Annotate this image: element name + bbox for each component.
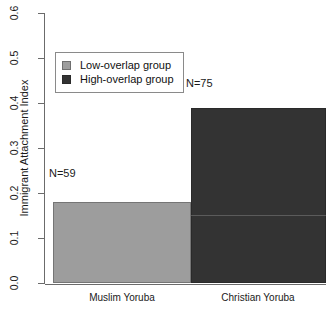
legend-label-low-overlap: Low-overlap group — [80, 59, 171, 71]
y-tick-mark-0.6 — [38, 13, 44, 14]
y-tick-mark-0.1 — [38, 238, 44, 239]
y-tick-mark-0.0 — [38, 283, 44, 284]
y-tick-mark-0.4 — [38, 103, 44, 104]
y-tick-label-0.2: 0.2 — [8, 173, 20, 213]
scan-artifact-line — [191, 215, 326, 216]
bar-high-overlap-group — [191, 108, 326, 284]
legend: Low-overlap group High-overlap group — [55, 52, 184, 93]
y-tick-mark-0.2 — [38, 193, 44, 194]
plot-area — [45, 0, 326, 284]
n-label-christian-yoruba: N=75 — [186, 77, 213, 89]
y-tick-label-0.4: 0.4 — [8, 83, 20, 123]
x-axis-line — [45, 284, 326, 285]
n-label-muslim-yoruba: N=59 — [49, 167, 76, 179]
x-tick-label-christian-yoruba: Christian Yoruba — [190, 292, 326, 303]
y-tick-label-0.6: 0.6 — [8, 0, 20, 33]
y-tick-label-0.1: 0.1 — [8, 218, 20, 258]
y-tick-mark-0.5 — [38, 58, 44, 59]
y-tick-label-0.5: 0.5 — [8, 38, 20, 78]
legend-label-high-overlap: High-overlap group — [80, 73, 174, 85]
legend-swatch-low-overlap-icon — [62, 61, 71, 70]
bar-low-overlap-group — [53, 202, 191, 283]
x-tick-label-muslim-yoruba: Muslim Yoruba — [52, 292, 192, 303]
legend-item-low-overlap: Low-overlap group — [62, 58, 174, 72]
y-tick-label-0.0: 0.0 — [8, 263, 20, 303]
bar-chart: Immigrant Attachment Index 0.0 0.1 0.2 0… — [0, 0, 326, 317]
y-tick-label-0.3: 0.3 — [8, 128, 20, 168]
legend-swatch-high-overlap-icon — [62, 75, 71, 84]
legend-item-high-overlap: High-overlap group — [62, 72, 174, 86]
y-tick-mark-0.3 — [38, 148, 44, 149]
